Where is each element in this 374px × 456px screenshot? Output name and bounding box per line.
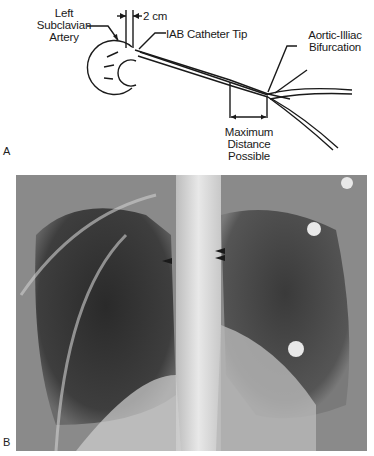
label-line: Bifurcation (295, 41, 374, 53)
label-line: Aortic-Illiac (295, 29, 374, 41)
label-line: Artery (34, 31, 94, 43)
label-maximum-distance: Maximum Distance Possible (219, 126, 279, 162)
diagram-panel-a: Left Subclavian Artery 2 cm IAB Catheter… (0, 0, 374, 172)
label-2cm: 2 cm (143, 10, 167, 22)
label-line: Subclavian (34, 19, 94, 31)
aortic-arch-inner (118, 60, 136, 86)
aortic-arch-outer (87, 41, 132, 95)
label-line: Possible (219, 150, 279, 162)
chest-xray-image (16, 175, 367, 451)
label-line: Left (34, 7, 94, 19)
label-catheter-tip: IAB Catheter Tip (166, 28, 247, 40)
label-line: Maximum (219, 126, 279, 138)
label-line: Distance (219, 138, 279, 150)
label-aortic-iliac-bifurcation: Aortic-Illiac Bifurcation (295, 29, 374, 53)
panel-letter-a: A (3, 145, 10, 157)
panel-letter-b: B (3, 436, 10, 448)
label-left-subclavian: Left Subclavian Artery (34, 7, 94, 43)
xray-rendering (16, 175, 367, 451)
